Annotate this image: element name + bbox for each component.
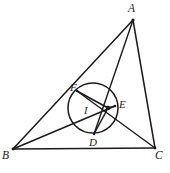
incenter-dot <box>106 106 110 110</box>
vertex-dot-A <box>131 18 134 21</box>
point-label-D: D <box>89 137 97 148</box>
geometry-figure: A B C D E F I <box>0 0 170 173</box>
radius-IF <box>77 91 108 108</box>
point-label-F: F <box>70 82 77 93</box>
segment-CA <box>133 20 155 148</box>
vertex-dot-B <box>12 148 15 151</box>
point-label-I: I <box>84 106 88 117</box>
point-label-C: C <box>155 150 163 162</box>
segment-BC <box>13 148 155 149</box>
point-dot-E <box>114 105 117 108</box>
point-label-A: A <box>128 3 135 15</box>
point-label-B: B <box>2 150 9 162</box>
geometry-canvas <box>0 0 170 173</box>
cevian-BE <box>13 106 115 149</box>
point-label-E: E <box>119 99 126 110</box>
point-dot-D <box>93 133 95 135</box>
